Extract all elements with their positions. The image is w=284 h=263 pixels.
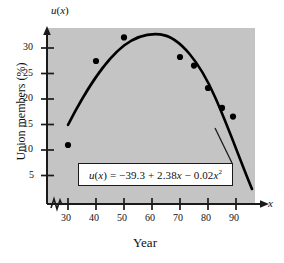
eq-minus: − <box>185 169 191 181</box>
data-point <box>93 58 99 64</box>
equation-text: u(x) = −39.3 + 2.38x − 0.02x2 <box>89 168 222 181</box>
x-tick-label-70: 70 <box>173 212 183 223</box>
chart-figure: u(x) x 30 25 20 15 10 5 30 40 50 60 70 8… <box>0 0 284 263</box>
eq-fn: u <box>89 169 95 181</box>
eq-term1: −39.3 <box>119 169 145 181</box>
eq-term2-coef: 2.38 <box>157 169 177 181</box>
data-point <box>65 142 71 148</box>
x-tick-label-90: 90 <box>229 212 239 223</box>
y-axis-symbol: u(x) <box>51 4 69 16</box>
eq-term3-coef: 0.02 <box>194 169 214 181</box>
eq-equals: = <box>110 169 116 181</box>
data-point <box>205 85 211 91</box>
eq-fn-var: x <box>98 169 103 181</box>
data-point <box>191 63 197 69</box>
data-point <box>121 34 127 40</box>
chart-svg <box>0 0 284 263</box>
data-point <box>177 54 183 60</box>
eq-term2-var: x <box>177 169 182 181</box>
data-point <box>219 105 225 111</box>
eq-plus: + <box>148 169 154 181</box>
x-tick-label-30: 30 <box>61 212 71 223</box>
eq-term3-exponent: 2 <box>218 168 222 176</box>
equation-annotation-box: u(x) = −39.3 + 2.38x − 0.02x2 <box>78 163 233 186</box>
x-axis-title: Year <box>133 235 157 251</box>
y-axis-title: Union members (%) <box>14 47 29 177</box>
x-axis-symbol: x <box>268 197 273 209</box>
y-tick-label-5: 5 <box>29 169 34 180</box>
x-tick-label-50: 50 <box>117 212 127 223</box>
x-tick-label-40: 40 <box>89 212 99 223</box>
x-tick-label-80: 80 <box>201 212 211 223</box>
x-tick-label-60: 60 <box>145 212 155 223</box>
data-point <box>230 114 236 120</box>
